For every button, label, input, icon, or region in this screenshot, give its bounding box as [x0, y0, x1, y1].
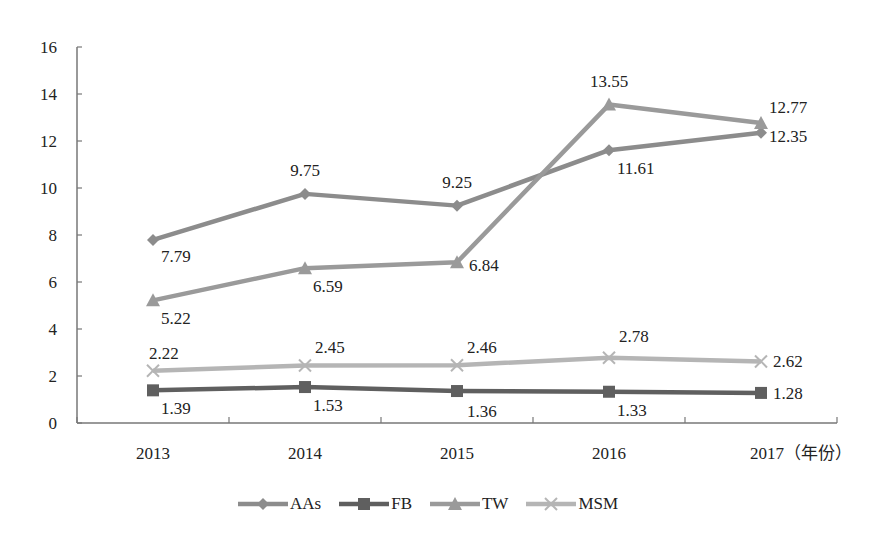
data-label: 9.75: [290, 161, 320, 180]
y-tick-label: 8: [49, 226, 58, 245]
data-label: 12.35: [769, 127, 807, 146]
y-tick-label: 2: [49, 367, 58, 386]
data-label: 5.22: [161, 309, 191, 328]
data-label: 2.78: [619, 327, 649, 346]
data-label: 1.53: [313, 396, 343, 415]
x-tick-label: 2016: [592, 444, 626, 463]
legend-label: FB: [391, 494, 412, 514]
line-chart: 024681012141620132014201520162017（年份） 7.…: [0, 0, 876, 548]
legend: AAsFBTWMSM: [238, 494, 618, 514]
x-tick-label: 2017（年份）: [750, 444, 852, 463]
data-label: 6.84: [469, 256, 499, 275]
legend-item-tw: TW: [430, 494, 508, 514]
data-label: 9.25: [442, 173, 472, 192]
y-tick-label: 16: [40, 38, 57, 57]
data-label: 11.61: [617, 159, 655, 178]
data-label: 2.46: [467, 338, 497, 357]
diamond-marker-icon: [238, 496, 288, 512]
data-label: 2.22: [149, 344, 179, 363]
series-fb: [147, 381, 767, 399]
legend-item-msm: MSM: [526, 494, 618, 514]
y-tick-label: 10: [40, 179, 57, 198]
series-lines: [146, 98, 768, 399]
data-label: 12.77: [769, 98, 808, 117]
x-tick-label: 2014: [288, 444, 323, 463]
series-msm: [147, 352, 767, 377]
square-marker-icon: [339, 496, 389, 512]
y-tick-label: 14: [40, 85, 58, 104]
data-label: 2.45: [315, 338, 345, 357]
x-tick-label: 2013: [136, 444, 170, 463]
y-tick-label: 4: [49, 320, 58, 339]
x-marker-icon: [526, 496, 576, 512]
legend-label: MSM: [578, 494, 618, 514]
x-tick-label: 2015: [440, 444, 474, 463]
data-label: 1.33: [617, 401, 647, 420]
data-label: 13.55: [590, 72, 628, 91]
legend-item-fb: FB: [339, 494, 412, 514]
y-tick-label: 0: [49, 414, 58, 433]
legend-label: AAs: [290, 494, 321, 514]
data-label: 7.79: [161, 247, 191, 266]
data-label: 1.28: [773, 384, 803, 403]
legend-item-aas: AAs: [238, 494, 321, 514]
data-label: 2.62: [773, 352, 803, 371]
legend-label: TW: [482, 494, 508, 514]
data-label: 1.39: [161, 399, 191, 418]
triangle-marker-icon: [430, 496, 480, 512]
data-label: 1.36: [467, 402, 497, 421]
y-tick-label: 12: [40, 132, 57, 151]
data-label: 6.59: [313, 277, 343, 296]
y-tick-label: 6: [49, 273, 58, 292]
